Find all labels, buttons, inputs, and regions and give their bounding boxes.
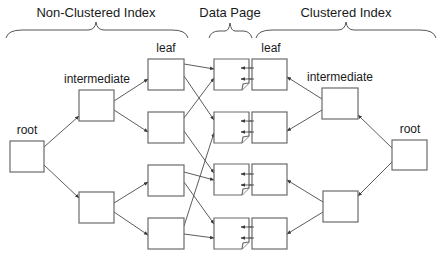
clustered-leaf-node [252,59,287,90]
clustered-index-header: Clustered Index [300,5,392,20]
clustered-intermediate-node [323,191,358,222]
clustered-index-brace [256,22,436,38]
nonclustered-edges [44,64,214,238]
data-page-node [214,112,249,143]
data-page-node [214,218,249,249]
leaf-to-page-pointers [241,68,254,238]
left-leaf-label: leaf [156,41,176,55]
right-intermediate-label: intermediate [307,70,373,84]
index-structure-diagram: Non-Clustered Index Data Page Clustered … [0,0,438,253]
data-page-header: Data Page [199,5,260,20]
nonclustered-intermediate-node [79,90,114,121]
nonclustered-leaf-node [148,165,184,196]
clustered-intermediate-node [322,88,358,119]
nonclustered-leaf-node [148,59,184,90]
clustered-leaf-node [252,112,287,143]
nonclustered-leaf-node [148,112,184,143]
data-page-brace [209,23,252,38]
nonclustered-root-node [10,141,44,172]
data-page-node [214,59,249,90]
right-leaf-label: leaf [261,41,281,55]
left-root-label: root [17,123,38,137]
nonclustered-index-header: Non-Clustered Index [36,5,156,20]
clustered-root-node [392,140,427,170]
nonclustered-intermediate-node [79,192,114,223]
clustered-leaf-node [252,164,287,195]
clustered-leaf-node [252,218,287,249]
nonclustered-leaf-node [148,218,184,249]
left-intermediate-label: intermediate [64,72,130,86]
clustered-edges [241,68,392,238]
data-page-node [214,164,249,195]
right-root-label: root [400,122,421,136]
nonclustered-brace [6,22,188,38]
